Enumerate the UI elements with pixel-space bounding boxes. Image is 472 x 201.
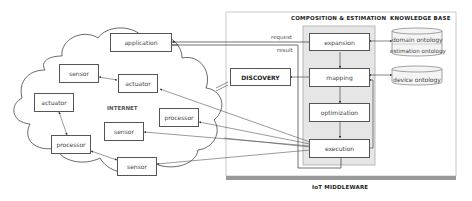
step-mapping: mapping: [309, 68, 370, 87]
domain-ontology-label: domain ontology: [392, 36, 442, 43]
node-actuator: actuator: [34, 93, 74, 112]
node-sensor: sensor: [59, 64, 99, 83]
node-application: application: [110, 33, 172, 52]
node-processor: processor: [51, 135, 91, 154]
internet-label: INTERNET: [107, 105, 138, 111]
estimation-ontology-label: estimation ontology: [390, 48, 444, 54]
discovery-box: DISCOVERY: [230, 68, 291, 86]
node-sensor: sensor: [104, 122, 144, 141]
result-label: result: [277, 47, 293, 53]
middleware-bar: [226, 176, 456, 180]
step-expansion: expansion: [309, 33, 370, 51]
middleware-label: IoT MIDDLEWARE: [312, 184, 368, 190]
node-actuator: actuator: [118, 74, 158, 93]
knowledge-base-title: KNOWLEDGE BASE: [390, 15, 451, 21]
node-sensor: sensor: [117, 157, 157, 176]
composition-title: COMPOSITION & ESTIMATION: [291, 15, 386, 21]
request-label: request: [271, 34, 292, 40]
step-optimization: optimization: [309, 103, 370, 122]
node-processor: processor: [159, 108, 199, 127]
device-ontology-label: device ontology: [392, 76, 442, 83]
step-execution: execution: [309, 139, 370, 158]
